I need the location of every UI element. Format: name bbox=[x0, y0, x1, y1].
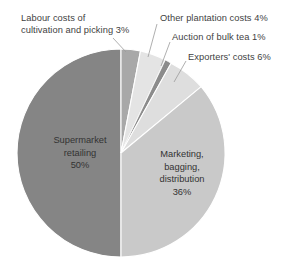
slice-label-marketing-line1: Marketing, bbox=[160, 149, 203, 159]
slice-label-marketing-line3: distribution bbox=[160, 174, 205, 184]
label-labour-costs-line2: cultivation and picking 3% bbox=[21, 25, 129, 35]
label-other-plantation-costs: Other plantation costs 4% bbox=[160, 12, 268, 24]
slice-label-marketing-bagging-distribution: Marketing,bagging,distribution36% bbox=[132, 148, 232, 198]
slice-label-supermarket-retailing: Supermarketretailing50% bbox=[30, 134, 130, 172]
label-auction-of-bulk-tea: Auction of bulk tea 1% bbox=[172, 31, 266, 43]
leader-line-other-plantation-costs bbox=[148, 24, 157, 57]
label-exporters-costs: Exporters' costs 6% bbox=[188, 51, 271, 63]
slice-label-supermarket-line1: Supermarket bbox=[53, 135, 106, 145]
label-labour-costs-line1: Labour costs of bbox=[21, 13, 85, 23]
pie-chart: Labour costs ofcultivation and picking 3… bbox=[0, 0, 295, 269]
slice-label-supermarket-line3: 50% bbox=[71, 160, 90, 170]
slice-label-marketing-line4: 36% bbox=[173, 187, 192, 197]
slice-label-marketing-line2: bagging, bbox=[164, 162, 200, 172]
slice-label-supermarket-line2: retailing bbox=[64, 148, 97, 158]
label-labour-costs: Labour costs ofcultivation and picking 3… bbox=[21, 12, 129, 37]
